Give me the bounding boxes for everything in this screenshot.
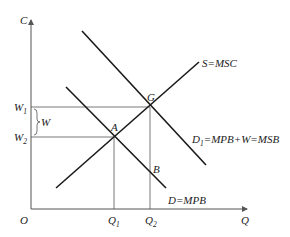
point-a-label: A: [110, 121, 118, 133]
w1-label: W1: [14, 101, 27, 116]
externality-diagram: C Q O W1 W2 W Q1 Q2 G A B S=MSC D1=MPB+W…: [0, 0, 290, 237]
demand-social-label: D1=MPB+W=MSB: [191, 133, 279, 148]
y-axis-label: C: [20, 14, 28, 26]
q2-label: Q2: [145, 214, 157, 229]
origin-label: O: [20, 214, 28, 226]
w-bracket: [34, 109, 40, 135]
point-g-label: G: [147, 91, 155, 103]
demand-social-curve: [82, 31, 206, 165]
point-b-label: B: [153, 163, 160, 175]
w-bracket-label: W: [41, 116, 51, 128]
demand-private-label: D=MPB: [167, 194, 206, 206]
q1-label: Q1: [108, 214, 120, 229]
w2-label: W2: [14, 131, 27, 146]
x-axis-label: Q: [241, 214, 249, 226]
supply-label: S=MSC: [202, 57, 238, 69]
